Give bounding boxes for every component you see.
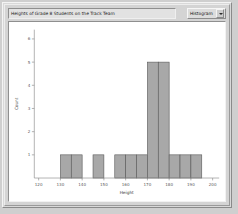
y-tick-label: 1: [28, 152, 31, 157]
histogram-bar[interactable]: [147, 62, 158, 178]
plot-type-dropdown[interactable]: Histogram: [187, 8, 226, 19]
plot-title-input[interactable]: Heights of Grade 8 Students on the Track…: [8, 8, 176, 19]
window-toolbar: Heights of Grade 8 Students on the Track…: [8, 8, 226, 19]
histogram-bar[interactable]: [191, 155, 202, 178]
chevron-down-icon[interactable]: [216, 9, 224, 18]
histogram-bar[interactable]: [169, 155, 180, 178]
plot-window: Heights of Grade 8 Students on the Track…: [2, 2, 232, 208]
histogram-bar[interactable]: [158, 62, 169, 178]
chart-canvas[interactable]: 123456 120130140150160170180190200 Count…: [8, 21, 226, 202]
x-tick-label: 190: [187, 182, 195, 187]
x-tick-label: 180: [165, 182, 173, 187]
histogram-bars: [60, 62, 201, 178]
y-axis-ticks: 123456: [28, 36, 34, 157]
histogram-bar[interactable]: [71, 155, 82, 178]
plot-type-label: Histogram: [188, 11, 216, 16]
histogram-bar[interactable]: [115, 155, 126, 178]
x-axis-ticks: 120130140150160170180190200: [35, 178, 217, 187]
x-tick-label: 150: [100, 182, 108, 187]
y-tick-label: 4: [28, 83, 31, 88]
y-tick-label: 2: [28, 129, 31, 134]
x-tick-label: 120: [35, 182, 43, 187]
x-tick-label: 160: [122, 182, 130, 187]
histogram-bar[interactable]: [180, 155, 191, 178]
histogram-bar[interactable]: [93, 155, 104, 178]
x-tick-label: 200: [209, 182, 217, 187]
histogram-bar[interactable]: [137, 155, 148, 178]
x-tick-label: 140: [78, 182, 86, 187]
x-tick-label: 130: [56, 182, 64, 187]
histogram-bar[interactable]: [60, 155, 71, 178]
y-tick-label: 6: [28, 36, 31, 41]
y-axis-title: Count: [14, 97, 19, 110]
x-axis-title: Height: [120, 190, 134, 195]
histogram-bar[interactable]: [126, 155, 137, 178]
histogram-plot: 123456 120130140150160170180190200 Count…: [9, 22, 225, 201]
x-tick-label: 170: [143, 182, 151, 187]
y-tick-label: 5: [28, 60, 31, 65]
y-tick-label: 3: [28, 106, 31, 111]
window-inner-panel: Heights of Grade 8 Students on the Track…: [4, 4, 230, 206]
